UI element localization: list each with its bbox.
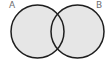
set-a-label: A [9,1,15,10]
venn-canvas [0,0,109,61]
set-b-label: B [96,1,102,10]
